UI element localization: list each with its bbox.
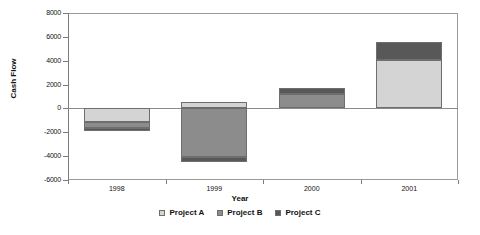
x-axis-title: Year (210, 194, 270, 203)
bar-segment[interactable] (279, 88, 345, 95)
bar-segment[interactable] (84, 128, 150, 131)
legend-label: Project A (169, 208, 204, 217)
bar-group[interactable] (279, 0, 345, 180)
bar-group[interactable] (181, 0, 247, 180)
bar-segment[interactable] (181, 108, 247, 157)
legend-swatch-icon (217, 210, 223, 216)
y-axis-tick (63, 156, 68, 157)
y-axis-tick (63, 132, 68, 133)
y-axis-tick (63, 61, 68, 62)
legend-item[interactable]: Project C (275, 208, 320, 217)
legend-swatch-icon (275, 210, 281, 216)
bar-segment[interactable] (279, 94, 345, 108)
y-axis-line (68, 13, 69, 180)
x-axis-tick-label: 1998 (87, 185, 147, 193)
legend-item[interactable]: Project B (217, 208, 262, 217)
bar-group[interactable] (376, 0, 442, 180)
y-axis-tick-label: -4000 (3, 152, 61, 159)
y-axis-tick-label: -2000 (3, 128, 61, 135)
x-axis-tick (263, 180, 264, 184)
bar-group[interactable] (84, 0, 150, 180)
chart-legend: Project AProject BProject C (0, 208, 480, 217)
bar-segment[interactable] (181, 157, 247, 161)
legend-label: Project B (227, 208, 262, 217)
bar-segment[interactable] (181, 102, 247, 109)
bar-segment[interactable] (84, 108, 150, 121)
y-axis-title: Cash Flow (9, 44, 18, 114)
bar-segment[interactable] (376, 42, 442, 60)
legend-label: Project C (285, 208, 320, 217)
x-axis-tick (166, 180, 167, 184)
bar-segment[interactable] (84, 122, 150, 129)
x-axis-tick-label: 1999 (184, 185, 244, 193)
y-axis-tick (63, 85, 68, 86)
legend-swatch-icon (159, 210, 165, 216)
y-axis-tick (63, 13, 68, 14)
y-axis-tick (63, 180, 68, 181)
x-axis-tick-label: 2001 (379, 185, 439, 193)
y-axis-labels: 80006000400020000-2000-4000-6000 (0, 0, 61, 235)
x-axis-tick (458, 180, 459, 184)
y-axis-tick-label: -6000 (3, 176, 61, 183)
y-axis-tick (63, 37, 68, 38)
y-axis-tick (63, 108, 68, 109)
cash-flow-chart: 80006000400020000-2000-4000-6000 Cash Fl… (0, 0, 480, 235)
x-axis-tick (68, 180, 69, 184)
y-axis-tick-label: 8000 (3, 9, 61, 16)
x-axis-tick-label: 2000 (282, 185, 342, 193)
y-axis-tick-label: 6000 (3, 33, 61, 40)
bar-segment[interactable] (376, 60, 442, 108)
legend-item[interactable]: Project A (159, 208, 204, 217)
x-axis-tick (361, 180, 362, 184)
